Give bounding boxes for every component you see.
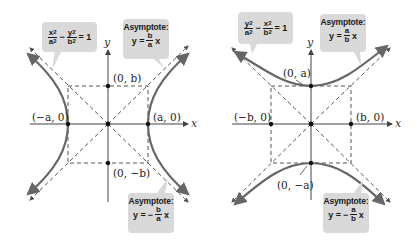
vertex-point <box>146 122 150 126</box>
label-vertex-top: (0, a) <box>283 67 311 79</box>
label-y-axis: y <box>306 36 314 49</box>
hyperbola-branch-left-lower <box>28 124 68 194</box>
label-x-axis: x <box>395 117 402 130</box>
callout-pointer <box>250 44 257 54</box>
center-point <box>309 122 314 127</box>
label-vertex-right: (a, 0) <box>153 111 181 123</box>
equation-callout-right: y2a2 − x2b2 = 1 <box>238 12 293 44</box>
covertex-point <box>349 122 353 126</box>
covertex-point <box>106 84 110 88</box>
vertex-point <box>309 161 313 165</box>
asymptote-callout-negative-left: Asymptote: y =−bax <box>128 193 174 233</box>
label-covertex-right: (b, 0) <box>356 111 384 123</box>
hyperbola-branch-right-lower <box>148 124 188 194</box>
callout-pointer <box>52 50 62 70</box>
label-covertex-top: (0, b) <box>113 72 141 84</box>
label-covertex-bottom: (0, −b) <box>113 167 150 179</box>
right-diagram: (−b, 0) (b, 0) (0, a) (0, −a) x y <box>232 36 402 204</box>
callout-pointer <box>157 178 168 193</box>
hyperbola-branch-upper-right <box>311 46 387 86</box>
asymptote-line <box>30 124 108 200</box>
asymptote-callout-positive-right: Asymptote: y =abx <box>320 14 366 52</box>
label-vertex-left: (−a, 0) <box>32 111 69 123</box>
asymptote-callout-negative-right: Asymptote: y =−abx <box>323 193 369 233</box>
equation-callout-left: x2a2 − y2b2 = 1 <box>42 22 97 52</box>
vertex-point <box>309 84 313 88</box>
left-diagram: (−a, 0) (a, 0) (0, b) (0, −b) x y <box>28 36 198 202</box>
center-point <box>106 122 111 127</box>
covertex-point <box>106 161 110 165</box>
label-x-axis: x <box>191 117 198 130</box>
label-y-axis: y <box>103 36 111 49</box>
asymptote-callout-positive-left: Asymptote: y =bax <box>123 19 169 59</box>
label-vertex-bottom: (0, −a) <box>277 179 314 191</box>
leader-line <box>300 166 307 175</box>
label-covertex-left: (−b, 0) <box>234 111 271 123</box>
